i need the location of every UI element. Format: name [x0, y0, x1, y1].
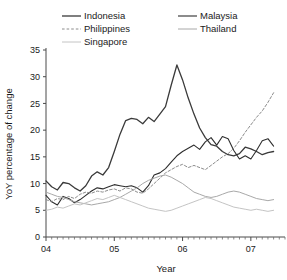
legend-label-philippines: Philippines	[84, 23, 130, 34]
x-tick-label: 05	[109, 244, 119, 254]
y-tick-label: 5	[35, 205, 40, 215]
y-tick-label: 30	[30, 72, 40, 82]
y-axis-title: YoY percentage of change	[3, 88, 14, 199]
series-line-indonesia	[46, 65, 274, 191]
y-tick-label: 0	[35, 232, 40, 242]
y-tick-label: 20	[30, 125, 40, 135]
y-tick-label: 10	[30, 179, 40, 189]
chart-legend: IndonesiaMalaysiaPhilippinesThailandSing…	[62, 10, 238, 47]
y-tick-label: 35	[30, 45, 40, 55]
series-line-singapore	[46, 195, 274, 211]
legend-label-singapore: Singapore	[84, 36, 127, 47]
legend-label-indonesia: Indonesia	[84, 10, 126, 21]
series-line-philippines	[46, 93, 274, 202]
chart-canvas: IndonesiaMalaysiaPhilippinesThailandSing…	[0, 0, 287, 280]
x-tick-label: 04	[41, 244, 51, 254]
series-line-thailand	[46, 175, 274, 205]
y-tick-label: 15	[30, 152, 40, 162]
x-axis-title: Year	[156, 263, 175, 274]
y-tick-label: 25	[30, 99, 40, 109]
x-tick-label: 06	[178, 244, 188, 254]
x-tick-label: 07	[246, 244, 256, 254]
legend-label-malaysia: Malaysia	[200, 10, 238, 21]
chart-axes: 0510152025303504050607	[30, 45, 285, 254]
line-chart: IndonesiaMalaysiaPhilippinesThailandSing…	[0, 0, 287, 280]
legend-label-thailand: Thailand	[200, 23, 236, 34]
chart-series	[46, 65, 274, 211]
